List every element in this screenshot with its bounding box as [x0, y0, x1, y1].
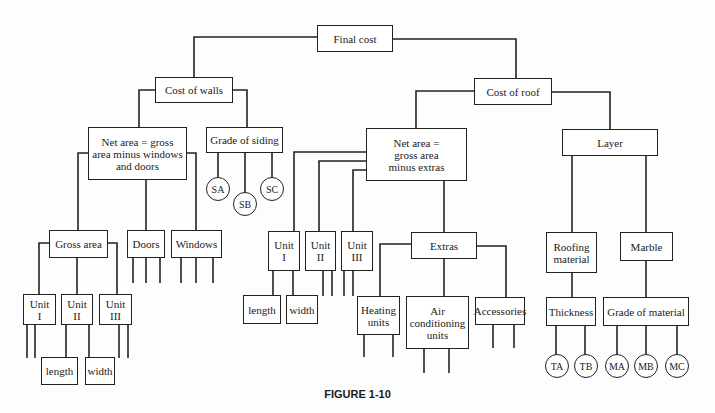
node-tb: TB — [574, 354, 598, 378]
node-extras: Extras — [411, 232, 477, 259]
figure-caption: FIGURE 1-10 — [0, 388, 715, 400]
node-accessories: Accessories — [475, 297, 525, 325]
node-layer: Layer — [562, 129, 658, 156]
node-mb: MB — [634, 354, 658, 378]
node-cost-of-roof: Cost of roof — [474, 78, 552, 105]
node-final-cost: Final cost — [317, 25, 393, 52]
node-doors: Doors — [127, 230, 165, 258]
node-gross-area: Gross area — [49, 230, 108, 258]
node-walls-length: length — [41, 357, 78, 385]
node-marble: Marble — [620, 232, 673, 261]
node-walls-unit-2: Unit II — [61, 294, 93, 325]
node-roof-unit-1: Unit I — [268, 231, 300, 271]
node-roof-unit-3: Unit III — [341, 231, 373, 271]
node-net-area-roof: Net area = gross area minus extras — [366, 128, 467, 181]
node-cost-of-walls: Cost of walls — [155, 77, 233, 103]
node-grade-of-material: Grade of material — [603, 297, 689, 326]
node-grade-of-siding: Grade of siding — [206, 127, 283, 153]
node-roof-unit-2: Unit II — [305, 231, 336, 271]
node-walls-unit-1: Unit I — [23, 294, 56, 325]
diagram-canvas: Final cost Cost of walls Cost of roof Ne… — [0, 0, 715, 413]
node-thickness: Thickness — [546, 297, 596, 326]
node-ta: TA — [545, 354, 569, 378]
node-sa: SA — [206, 177, 230, 201]
connector-lines — [0, 0, 715, 413]
node-sc: SC — [260, 177, 284, 201]
node-windows: Windows — [171, 230, 222, 258]
node-heating-units: Heating units — [357, 296, 400, 335]
node-walls-width: width — [85, 357, 115, 385]
node-ma: MA — [605, 354, 629, 378]
node-roof-width: width — [286, 295, 318, 324]
node-air-conditioning-units: Air conditioning units — [406, 296, 469, 349]
node-walls-unit-3: Unit III — [99, 294, 132, 325]
node-roof-length: length — [243, 295, 281, 324]
node-roofing-material: Roofing material — [546, 232, 597, 273]
node-mc: MC — [665, 354, 689, 378]
node-net-area-walls: Net area = gross area minus windows and … — [88, 127, 187, 180]
node-sb: SB — [233, 192, 257, 216]
